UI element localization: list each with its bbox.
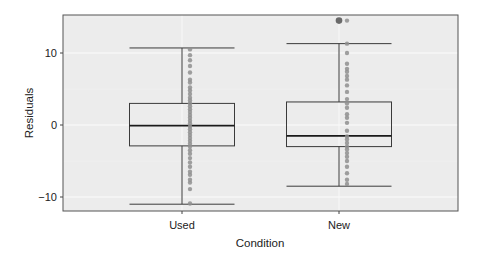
data-point <box>345 121 349 125</box>
data-point <box>188 53 192 57</box>
data-point <box>345 41 349 45</box>
data-point <box>188 180 192 184</box>
data-point <box>345 62 349 66</box>
data-point <box>345 83 349 87</box>
x-tick-label-used: Used <box>169 219 195 231</box>
data-point <box>188 80 192 84</box>
data-point <box>345 77 349 81</box>
data-point <box>345 70 349 74</box>
data-point <box>345 51 349 55</box>
data-point <box>188 201 192 205</box>
x-tick-label-new: New <box>328 219 350 231</box>
data-point <box>188 172 192 176</box>
data-point <box>345 116 349 120</box>
x-axis-title: Condition <box>236 237 285 249</box>
data-point <box>188 156 192 160</box>
y-axis: −10010 <box>38 47 63 203</box>
data-point <box>345 18 349 22</box>
data-point <box>345 90 349 94</box>
data-point <box>345 129 349 133</box>
data-point <box>188 70 192 74</box>
plot-panel <box>63 15 458 211</box>
data-point <box>188 64 192 68</box>
points-used <box>188 47 192 205</box>
data-point <box>345 97 349 101</box>
data-point <box>188 187 192 191</box>
data-point <box>188 160 192 164</box>
x-axis: UsedNew <box>169 211 350 231</box>
data-point <box>188 165 192 169</box>
data-point <box>345 178 349 182</box>
data-point <box>345 106 349 110</box>
y-tick-label: 10 <box>45 47 57 59</box>
outlier-point <box>336 17 343 24</box>
y-axis-title: Residuals <box>23 88 35 139</box>
data-point <box>188 152 192 156</box>
data-point <box>345 165 349 169</box>
data-point <box>345 182 349 186</box>
boxplot-chart: −10010 UsedNew Condition Residuals <box>0 0 480 265</box>
data-point <box>188 47 192 51</box>
data-point <box>345 159 349 163</box>
y-tick-label: −10 <box>38 191 57 203</box>
y-tick-label: 0 <box>51 119 57 131</box>
data-point <box>345 171 349 175</box>
data-point <box>188 58 192 62</box>
data-point <box>345 154 349 158</box>
data-point <box>345 101 349 105</box>
